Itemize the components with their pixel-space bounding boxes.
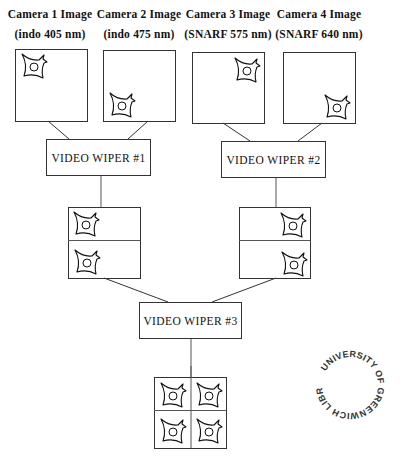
video-wiper-1: VIDEO WIPER #1	[46, 139, 151, 176]
video-wiper-2: VIDEO WIPER #2	[221, 141, 326, 178]
camera-3-frame	[193, 53, 265, 124]
video-wiper-1-label: VIDEO WIPER #1	[51, 152, 145, 164]
stamp-text: UNIVERSITY OF GREENWICH LIBRARY	[305, 340, 386, 421]
video-wiper-2-label: VIDEO WIPER #2	[226, 154, 320, 166]
camera-2-frame	[104, 51, 176, 122]
video-wiper-3-label: VIDEO WIPER #3	[143, 315, 237, 327]
wiper-1-output-stack	[69, 208, 141, 279]
camera-1-frame	[16, 50, 88, 122]
svg-text:UNIVERSITY OF GREENWICH LIBRAR: UNIVERSITY OF GREENWICH LIBRARY	[305, 340, 386, 421]
video-wiper-3: VIDEO WIPER #3	[139, 302, 242, 339]
wiper-2-output-stack	[240, 208, 311, 279]
library-stamp: UNIVERSITY OF GREENWICH LIBRARY	[305, 340, 395, 430]
